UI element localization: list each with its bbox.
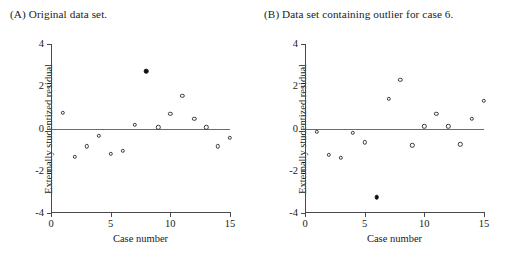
data-point [108, 152, 112, 156]
panel-b-ylabel-m2: -2 [289, 166, 298, 177]
panel-b-xlabel-10: 10 [419, 219, 430, 230]
panel-b-x-axis-title: Case number [305, 233, 484, 244]
panel-a-ylabel-m2: -2 [35, 166, 44, 177]
data-point [327, 153, 331, 157]
panel-a-xtick-5 [111, 212, 112, 217]
data-point [168, 112, 172, 116]
data-point [216, 144, 220, 148]
data-point [192, 117, 196, 121]
panel-b-ytick-4 [301, 44, 306, 45]
data-point-highlighted [374, 195, 379, 200]
panel-a-xlabel-15: 15 [225, 219, 236, 230]
data-point [315, 129, 319, 133]
panel-b-y-axis-title-wrap: Externally studentized residual [268, 44, 282, 213]
panel-a-ylabel-m4: -4 [35, 208, 44, 219]
panel-b-xlabel-15: 15 [479, 219, 490, 230]
data-point [398, 78, 402, 82]
panel-a-ytick-0 [47, 129, 52, 130]
panel-a-xtick-10 [170, 212, 171, 217]
data-point [228, 136, 232, 140]
panel-b-ytick-m2 [301, 171, 306, 172]
data-point [97, 134, 101, 138]
panel-a-ytick-2 [47, 86, 52, 87]
panel-b-ylabel-2: 2 [293, 81, 298, 92]
panel-a-ylabel-4: 4 [39, 39, 44, 50]
data-point [362, 140, 366, 144]
data-point [73, 155, 77, 159]
data-point [458, 142, 462, 146]
panel-a-zero-line [51, 129, 230, 130]
panel-b-xtick-10 [424, 212, 425, 217]
panel-b-xtick-0 [305, 212, 306, 217]
panel-a-ytick-m2 [47, 171, 52, 172]
panel-a-ylabel-2: 2 [39, 81, 44, 92]
panel-b-xtick-15 [484, 212, 485, 217]
panel-b-xlabel-0: 0 [302, 219, 307, 230]
data-point-highlighted [144, 69, 149, 74]
panel-a-xlabel-10: 10 [165, 219, 176, 230]
panel-a-xtick-0 [51, 212, 52, 217]
panel-a: (A) Original data set. Externally studen… [0, 0, 254, 275]
data-point [470, 117, 474, 121]
panel-b-ylabel-4: 4 [293, 39, 298, 50]
data-point [180, 94, 184, 98]
panel-b-ytick-0 [301, 129, 306, 130]
data-point [434, 112, 438, 116]
panel-b-xtick-5 [365, 212, 366, 217]
panel-a-xlabel-0: 0 [48, 219, 53, 230]
data-point [351, 131, 355, 135]
data-point [120, 148, 124, 152]
panel-b-ytick-2 [301, 86, 306, 87]
panel-a-y-axis-title-wrap: Externally studentized residual [14, 44, 28, 213]
panel-b-title: (B) Data set containing outlier for case… [264, 8, 453, 20]
data-point [132, 123, 136, 127]
panel-a-x-axis-title: Case number [51, 233, 230, 244]
panel-b-zero-line [305, 129, 484, 130]
panel-b-plot-area: 4 2 0 -2 -4 0 5 10 15 [305, 44, 484, 213]
panel-b: (B) Data set containing outlier for case… [254, 0, 508, 275]
panel-a-ytick-4 [47, 44, 52, 45]
panel-b-xlabel-5: 5 [362, 219, 367, 230]
panel-a-title: (A) Original data set. [10, 8, 107, 20]
panel-b-x-axis-line [305, 212, 484, 213]
panel-a-plot-area: 4 2 0 -2 -4 0 5 10 15 [51, 44, 230, 213]
data-point [482, 99, 486, 103]
data-point [61, 110, 65, 114]
panel-a-xtick-15 [230, 212, 231, 217]
panel-b-ylabel-0: 0 [293, 123, 298, 134]
panel-a-ylabel-0: 0 [39, 123, 44, 134]
panel-a-x-axis-line [51, 212, 230, 213]
data-point [386, 97, 390, 101]
data-point [410, 143, 414, 147]
panel-b-ylabel-m4: -4 [289, 208, 298, 219]
panel-a-xlabel-5: 5 [108, 219, 113, 230]
data-point [339, 156, 343, 160]
data-point [85, 144, 89, 148]
figure-two-panel-residual-plots: (A) Original data set. Externally studen… [0, 0, 508, 275]
